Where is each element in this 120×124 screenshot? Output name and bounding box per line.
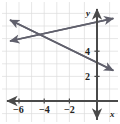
x-axis-label: x [110,110,115,119]
x-tick-label-neg6: −6 [13,105,24,115]
y-tick-label-2: 2 [85,72,90,82]
x-tick-label-neg2: −2 [64,105,75,115]
line-ascending-arrow-right [10,18,114,41]
coordinate-plane-figure: −6 −4 −2 4 2 x y [0,0,120,124]
line-descending-arrow-right [10,20,114,71]
y-axis-label: y [86,9,90,18]
x-tick-label-neg4: −4 [39,105,50,115]
y-tick-label-4: 4 [85,47,90,57]
